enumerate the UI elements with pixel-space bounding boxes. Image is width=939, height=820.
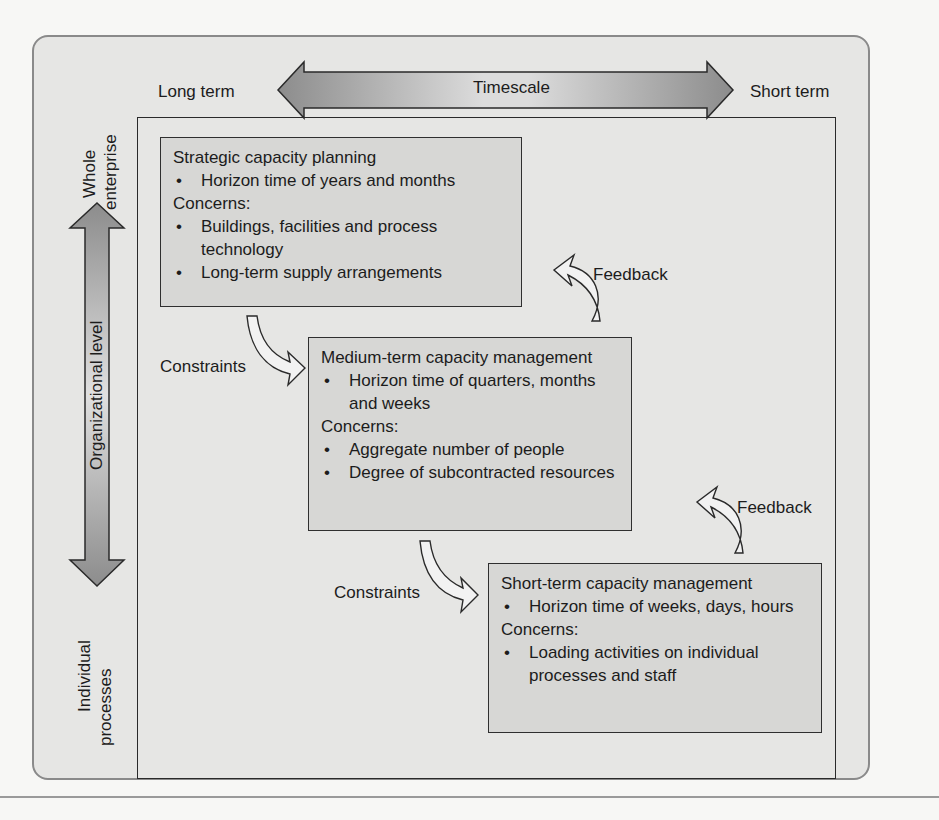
feedback-arrow-icon (0, 0, 939, 820)
caption-divider (0, 796, 939, 798)
constraints-label-1: Constraints (160, 357, 246, 377)
constraints-label-2: Constraints (334, 583, 420, 603)
feedback-label-1: Feedback (593, 265, 668, 285)
feedback-label-2: Feedback (737, 498, 812, 518)
